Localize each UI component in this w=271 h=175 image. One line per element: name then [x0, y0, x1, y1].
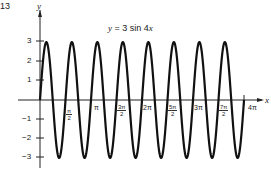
x-tick-label: π: [94, 104, 99, 112]
x-tick-label: 2π: [143, 104, 152, 112]
y-tick-label: −1: [22, 115, 31, 123]
chart-title: y = 3 sin 4x: [108, 24, 153, 32]
x-tick-label: 3π: [194, 104, 203, 112]
title-var-x: x: [149, 23, 153, 33]
y-tick-label: 1: [27, 76, 31, 84]
x-tick-label: 4π: [248, 104, 257, 112]
y-axis-label: y: [37, 2, 41, 10]
y-tick-label: 3: [27, 37, 31, 45]
title-eq: = 3 sin 4: [115, 23, 149, 33]
x-tick-label: 3π2: [117, 104, 126, 117]
y-axis-arrow-icon: [38, 10, 42, 17]
title-var-y: y: [108, 23, 112, 33]
x-tick-label: π2: [66, 108, 72, 121]
y-tick-label: −3: [22, 153, 31, 161]
x-tick-label: 5π2: [168, 104, 177, 117]
y-tick-label: 2: [27, 57, 31, 65]
x-tick-label: 7π2: [219, 104, 228, 117]
y-tick-label: −2: [22, 134, 31, 142]
x-axis-arrow-icon: [257, 98, 264, 102]
x-axis-label: x: [265, 96, 269, 104]
